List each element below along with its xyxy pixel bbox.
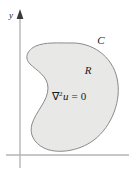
equation-variable: u bbox=[63, 90, 69, 102]
figure-container: y C R ∇2u=0 bbox=[0, 0, 136, 172]
equation-relation: = bbox=[72, 90, 78, 102]
y-axis-arrow-icon bbox=[17, 9, 24, 19]
region-label-r: R bbox=[84, 64, 92, 76]
math-diagram-svg: y C R ∇2u=0 bbox=[0, 0, 136, 172]
y-axis-label: y bbox=[8, 10, 13, 20]
equation-value: 0 bbox=[81, 90, 87, 102]
curve-label-c: C bbox=[97, 34, 105, 46]
